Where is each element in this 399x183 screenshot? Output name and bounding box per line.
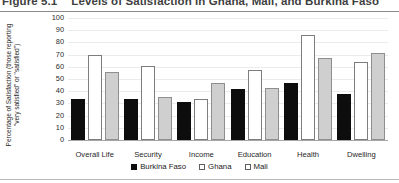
legend-swatch-icon [199,164,205,170]
bar-group [68,18,121,140]
y-tick-label: 0 [38,136,64,144]
bar [105,72,119,140]
legend-item: Mali [245,162,268,171]
bar [71,99,85,140]
bar [265,88,279,140]
x-tick-label: Income [175,150,228,159]
y-tick-label: 40 [38,87,64,95]
figure-caption-text: Levels of Satisfaction in Ghana, Mali, a… [71,0,379,7]
y-axis-tick-labels: 1009080706050403020100 [36,18,64,140]
bar [354,62,368,140]
bar [141,66,155,140]
bar [301,35,315,140]
bar [371,53,385,140]
bar-group [281,18,334,140]
legend-item: Ghana [199,162,231,171]
plot-area: Overall LifeSecurityIncomeEducationHealt… [68,18,388,140]
figure-number: Figure 5.1 [2,0,57,7]
legend-label: Mali [254,162,268,171]
y-tick-label: 90 [38,26,64,34]
y-tick-label: 20 [38,112,64,120]
bar [124,99,138,140]
y-tick-label: 10 [38,124,64,132]
bar-group [175,18,228,140]
bar [284,83,298,140]
y-tick-label: 60 [38,63,64,71]
x-tick-label: Security [121,150,174,159]
footer-divider [0,179,399,180]
gridline [68,140,388,141]
figure-caption: Figure 5.1Levels of Satisfaction in Ghan… [2,0,397,10]
bar [211,83,225,140]
y-tick-label: 50 [38,75,64,83]
bar-group [121,18,174,140]
bar [194,99,208,140]
x-tick-label: Overall Life [68,150,121,159]
y-tick-label: 80 [38,38,64,46]
bar-group [228,18,281,140]
bar [318,58,332,140]
x-tick-label: Dwelling [335,150,388,159]
x-tick-label: Education [228,150,281,159]
legend-label: Burkina Faso [140,162,186,171]
legend-swatch-icon [245,164,251,170]
x-tick-label: Health [281,150,334,159]
bar [231,89,245,140]
y-tick-label: 100 [38,14,64,22]
bar [177,102,191,140]
legend-label: Ghana [208,162,231,171]
y-tick-label: 70 [38,51,64,59]
y-axis-title: Percentage of Satisfaction (those report… [0,20,34,150]
bar [337,94,351,140]
bar [248,70,262,140]
y-tick-label: 30 [38,99,64,107]
legend-swatch-icon [131,164,137,170]
legend-item: Burkina Faso [131,162,186,171]
bar-chart: Percentage of Satisfaction (those report… [0,12,399,179]
bar-group [335,18,388,140]
bar [158,97,172,140]
bar [88,55,102,140]
chart-legend: Burkina FasoGhanaMali [0,162,399,171]
